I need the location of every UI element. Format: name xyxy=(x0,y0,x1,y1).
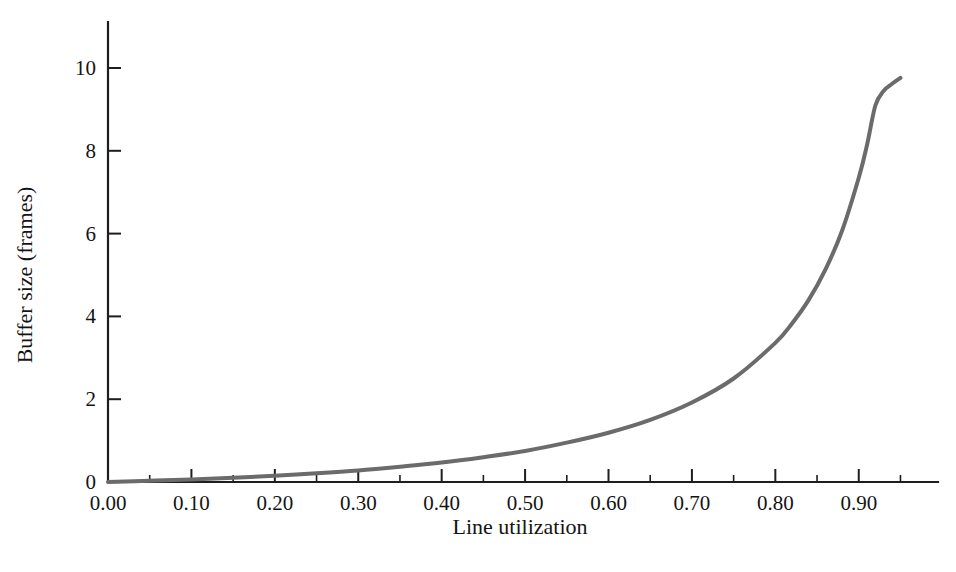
y-tick-label: 10 xyxy=(75,56,96,80)
x-tick-label: 0.30 xyxy=(340,491,377,515)
plot-series xyxy=(108,78,900,482)
x-tick-label: 0.20 xyxy=(256,491,293,515)
y-axis-tick-labels: 0246810 xyxy=(75,56,97,494)
x-axis-tick-labels: 0.000.100.200.300.400.500.600.700.800.90 xyxy=(90,491,878,515)
x-tick-label: 0.10 xyxy=(173,491,210,515)
x-tick-label: 0.60 xyxy=(590,491,627,515)
y-axis-title: Buffer size (frames) xyxy=(12,187,37,364)
buffer-size-line-chart: 0246810 0.000.100.200.300.400.500.600.70… xyxy=(0,0,956,572)
chart-figure: 0246810 0.000.100.200.300.400.500.600.70… xyxy=(0,0,956,572)
y-axis-ticks xyxy=(108,68,121,482)
x-axis-title: Line utilization xyxy=(452,514,587,539)
y-tick-label: 8 xyxy=(86,139,97,163)
x-tick-label: 0.40 xyxy=(423,491,460,515)
x-tick-label: 0.00 xyxy=(90,491,127,515)
x-tick-label: 0.70 xyxy=(674,491,711,515)
y-tick-label: 6 xyxy=(86,222,97,246)
axis-lines xyxy=(108,22,938,482)
x-tick-label: 0.50 xyxy=(507,491,544,515)
y-tick-label: 2 xyxy=(86,387,97,411)
x-tick-label: 0.90 xyxy=(840,491,877,515)
x-tick-label: 0.80 xyxy=(757,491,794,515)
plot-axes: 0246810 0.000.100.200.300.400.500.600.70… xyxy=(75,22,938,515)
y-tick-label: 4 xyxy=(86,304,97,328)
buffer-size-curve xyxy=(108,78,900,482)
